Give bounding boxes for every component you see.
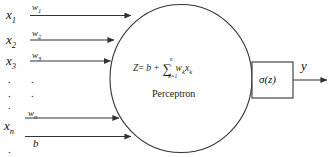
weight-label-wn: wn: [28, 109, 37, 120]
input-label-x1: x1: [6, 8, 16, 24]
weight-label-w1: w1: [32, 3, 41, 14]
ellipsis-dot: .: [31, 74, 34, 85]
activation-function-label: σ(z): [259, 74, 276, 85]
perceptron-body-label: Perceptron: [152, 89, 195, 99]
summation-symbol: ∑ n k=1: [163, 62, 172, 76]
ellipsis-dot: .: [8, 144, 11, 155]
perceptron-body-circle: [110, 5, 252, 153]
bias-label: b: [33, 138, 39, 149]
diagram-canvas: [0, 0, 334, 157]
perceptron-formula: Z= b + ∑ n k=1 wkxk: [133, 62, 192, 76]
input-label-x2: x2: [6, 33, 16, 49]
ellipsis-dot: .: [8, 74, 11, 85]
ellipsis-dot: .: [8, 88, 11, 99]
ellipsis-dot: .: [8, 100, 11, 111]
ellipsis-dot: .: [31, 88, 34, 99]
weight-label-w2: w2: [32, 29, 41, 40]
input-label-xn: xn: [4, 119, 14, 135]
weight-label-w3: w3: [32, 51, 41, 62]
input-label-x3: x3: [6, 54, 16, 70]
output-label-y: y: [301, 59, 307, 72]
perceptron-diagram: x1 w1 x2 w2 x3 w3 xn wn b . . . . . . Z=…: [0, 0, 334, 157]
